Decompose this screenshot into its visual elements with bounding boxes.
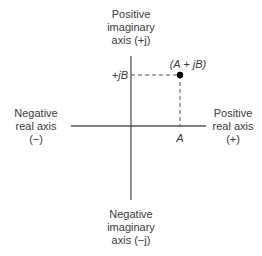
real-component-label: A <box>172 132 188 145</box>
label-line: Positive <box>91 8 171 21</box>
label-line: imaginary <box>91 21 171 34</box>
label-line: Positive <box>204 107 262 120</box>
complex-point <box>177 72 183 78</box>
real-component-text: A <box>176 132 183 144</box>
label-line: axis (+j) <box>91 34 171 47</box>
label-line: real axis <box>204 120 262 133</box>
label-line: imaginary <box>91 221 171 234</box>
label-line: axis (−j) <box>91 234 171 247</box>
label-line: (+) <box>204 133 262 146</box>
point-label: (A + jB) <box>160 58 216 71</box>
label-line: (−) <box>4 133 68 146</box>
imag-component-text: +jB <box>112 69 128 81</box>
negative-imaginary-label: Negative imaginary axis (−j) <box>91 208 171 247</box>
label-line: real axis <box>4 120 68 133</box>
negative-real-label: Negative real axis (−) <box>4 107 68 146</box>
point-label-text: (A + jB) <box>170 58 207 70</box>
imag-component-label: +jB <box>100 69 128 82</box>
positive-imaginary-label: Positive imaginary axis (+j) <box>91 8 171 47</box>
label-line: Negative <box>91 208 171 221</box>
label-line: Negative <box>4 107 68 120</box>
positive-real-label: Positive real axis (+) <box>204 107 262 146</box>
